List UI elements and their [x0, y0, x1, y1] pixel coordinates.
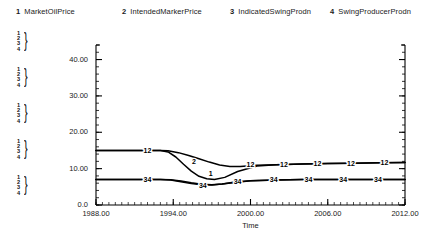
y-tick-label: 0.0	[34, 200, 88, 209]
y-tick-label: 10.00	[34, 164, 88, 173]
x-tick-label: 1994.00	[143, 209, 203, 218]
y-tick-label: 20.00	[34, 127, 88, 136]
x-axis-title: Time	[221, 221, 281, 230]
series-point-label-12: 12	[347, 160, 355, 167]
series-point-label-12: 12	[381, 159, 389, 166]
series-point-label-34: 34	[305, 176, 313, 183]
series-point-label-34: 34	[270, 176, 278, 183]
series-point-label-12: 12	[144, 147, 152, 154]
x-tick-label: 1988.00	[66, 209, 126, 218]
y-tick-label: 30.00	[34, 91, 88, 100]
x-tick-label: 2012.00	[375, 209, 435, 218]
series-point-label-12: 12	[247, 161, 255, 168]
series-point-label-34: 34	[374, 176, 382, 183]
x-tick-label: 2006.00	[298, 209, 358, 218]
series-point-label-34: 34	[234, 178, 242, 185]
series-point-label-extra: 1	[209, 170, 213, 177]
series-line-4	[96, 180, 405, 185]
x-tick-label: 2000.00	[221, 209, 281, 218]
series-point-label-12: 2	[192, 158, 196, 165]
series-point-label-34: 34	[339, 176, 347, 183]
series-point-label-34: 34	[199, 182, 207, 189]
y-tick-label: 40.00	[34, 55, 88, 64]
series-point-label-12: 12	[280, 161, 288, 168]
chart-screenshot: 1MarketOilPrice 2IntendedMarkerPrice 3In…	[0, 0, 446, 242]
series-point-label-12: 12	[314, 160, 322, 167]
series-point-label-34: 34	[144, 176, 152, 183]
